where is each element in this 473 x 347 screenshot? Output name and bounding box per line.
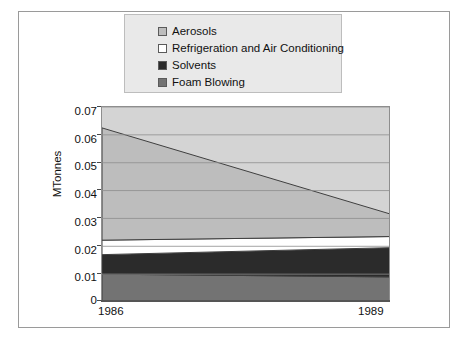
stacked-area-svg (102, 107, 390, 301)
area-series-group (102, 128, 390, 301)
x-tick-label-1986: 1986 (98, 306, 124, 318)
plot-area-wrapper (101, 106, 390, 301)
x-axis-rule (101, 300, 390, 302)
area-series (102, 128, 390, 240)
x-tick-label-1989: 1989 (358, 306, 384, 318)
area-series (102, 274, 390, 301)
plot-area (101, 106, 390, 301)
chart-page: Aerosols Refrigeration and Air Condition… (0, 0, 473, 347)
